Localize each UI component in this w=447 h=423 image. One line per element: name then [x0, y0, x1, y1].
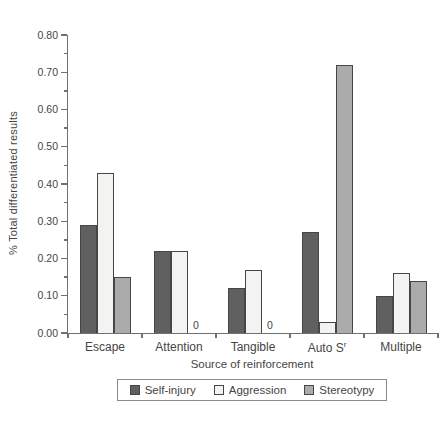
y-major-tick	[61, 295, 67, 296]
x-boundary-tick	[67, 333, 68, 338]
category-label-auto-s: Auto Sr	[290, 340, 364, 355]
y-tick-label: 0.80	[20, 29, 58, 41]
category-label-superscript: r	[344, 340, 347, 349]
y-minor-tick	[64, 239, 67, 240]
x-boundary-tick	[437, 333, 438, 338]
bar-self-injury-4	[376, 296, 393, 333]
legend-entry-self-injury: Self-injury	[130, 384, 196, 396]
bar-stereotypy-4	[410, 281, 427, 333]
y-minor-tick	[64, 127, 67, 128]
y-minor-tick	[64, 202, 67, 203]
legend-swatch-icon	[214, 385, 224, 395]
bar-aggression-3	[319, 322, 336, 333]
y-tick-label: 0.40	[20, 178, 58, 190]
legend-entry-stereotypy: Stereotypy	[304, 384, 374, 396]
bar-self-injury-1	[154, 251, 171, 333]
y-major-tick	[61, 146, 67, 147]
y-minor-tick	[64, 276, 67, 277]
y-major-tick	[61, 332, 67, 333]
y-major-tick	[61, 109, 67, 110]
x-boundary-tick	[289, 333, 290, 338]
bar-stereotypy-3	[336, 65, 353, 333]
x-boundary-tick	[215, 333, 216, 338]
legend-label: Aggression	[229, 384, 287, 396]
bar-aggression-2	[245, 270, 262, 333]
legend: Self-injuryAggressionStereotypy	[67, 379, 437, 401]
plot-area: 00EscapeAttentionTangibleAuto SrMultiple	[67, 35, 438, 334]
category-label-attention: Attention	[142, 340, 216, 354]
legend-label: Stereotypy	[319, 384, 374, 396]
legend-box: Self-injuryAggressionStereotypy	[117, 379, 388, 401]
y-major-tick	[61, 183, 67, 184]
bar-aggression-4	[393, 273, 410, 333]
y-tick-label: 0.20	[20, 252, 58, 264]
x-boundary-tick	[363, 333, 364, 338]
bar-self-injury-3	[302, 232, 319, 333]
bar-chart-figure: % Total differentiated results 00EscapeA…	[0, 0, 447, 423]
bar-self-injury-2	[228, 288, 245, 333]
y-major-tick	[61, 221, 67, 222]
legend-label: Self-injury	[145, 384, 196, 396]
legend-entry-aggression: Aggression	[214, 384, 287, 396]
y-minor-tick	[64, 53, 67, 54]
y-axis-title: % Total differentiated results	[7, 111, 19, 255]
y-minor-tick	[64, 90, 67, 91]
y-major-tick	[61, 34, 67, 35]
bar-aggression-0	[97, 173, 114, 333]
y-tick-label: 0.50	[20, 140, 58, 152]
zero-value-label: 0	[188, 319, 205, 331]
legend-swatch-icon	[130, 385, 140, 395]
y-major-tick	[61, 72, 67, 73]
y-major-tick	[61, 258, 67, 259]
category-label-escape: Escape	[68, 340, 142, 354]
bar-aggression-1	[171, 251, 188, 333]
y-tick-label: 0.00	[20, 327, 58, 339]
legend-swatch-icon	[304, 385, 314, 395]
y-tick-label: 0.60	[20, 103, 58, 115]
x-boundary-tick	[141, 333, 142, 338]
y-tick-label: 0.30	[20, 215, 58, 227]
bar-self-injury-0	[80, 225, 97, 333]
y-minor-tick	[64, 165, 67, 166]
zero-value-label: 0	[262, 319, 279, 331]
category-label-multiple: Multiple	[364, 340, 438, 354]
category-label-tangible: Tangible	[216, 340, 290, 354]
y-minor-tick	[64, 314, 67, 315]
y-tick-label: 0.70	[20, 66, 58, 78]
x-axis-title: Source of reinforcement	[67, 358, 437, 370]
bar-stereotypy-0	[114, 277, 131, 333]
y-tick-label: 0.10	[20, 289, 58, 301]
